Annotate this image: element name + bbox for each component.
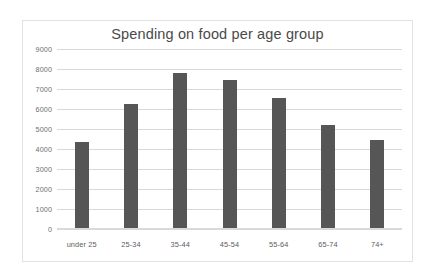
y-axis-tick-label: 3000 (36, 165, 52, 174)
y-axis-tick-label: 5000 (36, 125, 52, 134)
x-axis-tick-label: 45-54 (220, 240, 239, 249)
x-axis-tick-label: 35-44 (171, 240, 190, 249)
x-axis-tick-label: 25-34 (121, 240, 140, 249)
bar (75, 142, 89, 229)
gridline (57, 49, 402, 50)
y-axis-tick-label: 4000 (36, 145, 52, 154)
x-axis-tick-label: 74+ (371, 240, 384, 249)
bar (124, 104, 138, 229)
chart-container: Spending on food per age group 010002000… (22, 20, 413, 262)
gridline (57, 69, 402, 70)
bar (321, 125, 335, 229)
bar (272, 98, 286, 229)
x-axis-tick-label: 65-74 (318, 240, 337, 249)
y-axis-tick-label: 1000 (36, 205, 52, 214)
x-axis-tick-label: under 25 (67, 240, 97, 249)
y-axis-tick-label: 6000 (36, 105, 52, 114)
bar (370, 140, 384, 229)
y-axis-tick-label: 0 (48, 225, 52, 234)
y-axis-tick-label: 7000 (36, 85, 52, 94)
y-axis-tick-label: 2000 (36, 185, 52, 194)
x-axis-tick-label: 55-64 (269, 240, 288, 249)
y-axis-tick-label: 9000 (36, 45, 52, 54)
x-axis-baseline (57, 228, 402, 229)
bar (173, 73, 187, 229)
plot-area: 0100020003000400050006000700080009000 un… (57, 49, 402, 229)
chart-title: Spending on food per age group (23, 26, 412, 42)
y-axis-tick-label: 8000 (36, 65, 52, 74)
bar (223, 80, 237, 229)
gridline (57, 229, 402, 230)
